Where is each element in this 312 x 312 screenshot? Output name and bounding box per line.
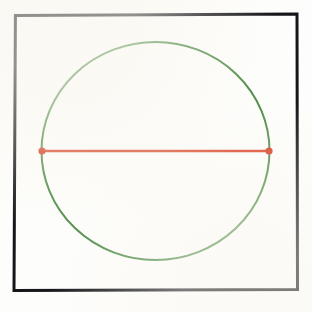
- geometry-figure-svg: [0, 0, 312, 312]
- figure-canvas: [0, 0, 312, 312]
- figure-background: [0, 0, 312, 312]
- right-endpoint-dot: [265, 147, 272, 154]
- left-endpoint-dot: [38, 147, 45, 154]
